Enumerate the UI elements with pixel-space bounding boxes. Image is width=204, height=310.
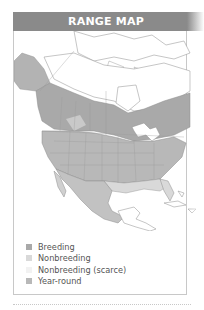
header-fade: [187, 12, 204, 31]
dotted-divider: [13, 304, 191, 305]
legend-item-year-round: Year-round: [26, 276, 126, 288]
legend-item-nonbreeding: Nonbreeding: [26, 253, 126, 265]
legend-label: Year-round: [38, 276, 82, 286]
range-map-title: RANGE MAP: [68, 15, 144, 28]
arctic-islands: [74, 31, 190, 61]
nonbreeding-swatch: [26, 255, 32, 261]
north-america-map: [14, 31, 204, 231]
legend-item-breeding: Breeding: [26, 241, 126, 253]
legend-label: Nonbreeding (scarce): [38, 265, 126, 275]
florida: [160, 179, 174, 201]
legend-label: Nonbreeding: [38, 253, 91, 263]
year-round-swatch: [26, 278, 32, 284]
legend-label: Breeding: [38, 242, 75, 252]
central-america: [118, 207, 156, 231]
page-edge-shadow: [190, 31, 204, 295]
legend-item-nonbreeding-scarce: Nonbreeding (scarce): [26, 264, 126, 276]
breeding-swatch: [26, 244, 32, 250]
range-map-header: RANGE MAP: [13, 12, 199, 31]
nonbreeding-scarce-swatch: [26, 267, 32, 273]
map-legend: Breeding Nonbreeding Nonbreeding (scarce…: [26, 241, 126, 287]
